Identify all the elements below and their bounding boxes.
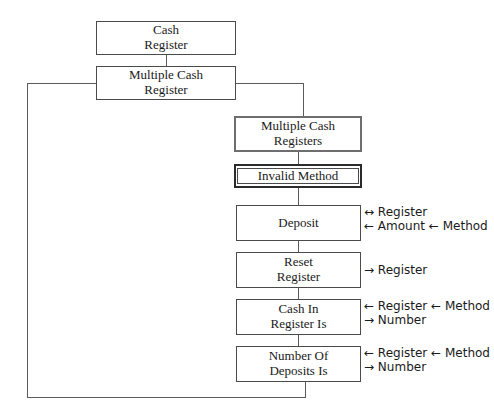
node-label-line2: Register <box>144 83 187 98</box>
structure-chart-diagram: CashRegisterMultiple CashRegisterMultipl… <box>0 0 494 419</box>
node-label-line1: Number Of <box>269 349 329 364</box>
node-label-line1: Cash <box>153 23 179 38</box>
annotation-row: → Number <box>364 314 490 328</box>
annotation-deposit-annot: ↔ Register← Amount ← Method <box>364 206 488 234</box>
annotation-row: → Register <box>364 264 427 278</box>
node-label-line2: Register Is <box>271 317 327 332</box>
node-inner-frame: Invalid Method <box>237 168 359 185</box>
node-label-line1: Multiple Cash <box>129 68 203 83</box>
annotation-row: ↔ Register <box>364 206 488 220</box>
connector-invalid-to-deposit <box>298 188 299 205</box>
node-cash-in-register-is[interactable]: Cash InRegister Is <box>236 299 361 335</box>
annotation-row: → Number <box>364 361 490 375</box>
annotation-row: ← Register ← Method <box>364 347 490 361</box>
node-label-line1: Reset <box>284 255 313 270</box>
connector-cash-to-multiple <box>166 55 167 66</box>
annotation-number-of-deposits-is-annot: ← Register ← Method→ Number <box>364 347 490 375</box>
node-label-line2: Register <box>144 38 187 53</box>
connector-return-bottom <box>27 397 306 398</box>
node-label-line1: Cash In <box>278 302 318 317</box>
node-label-line1: Invalid Method <box>258 169 339 184</box>
node-label-line2: Deposits Is <box>269 364 327 379</box>
connector-deposit-to-reset <box>298 241 299 252</box>
annotation-reset-register-annot: → Register <box>364 264 427 278</box>
connector-mcr-right-down <box>303 83 304 116</box>
node-label-line1: Deposit <box>278 216 318 231</box>
node-label-line2: Registers <box>274 134 322 149</box>
node-cash-register[interactable]: CashRegister <box>96 21 236 55</box>
annotation-row: ← Register ← Method <box>364 300 490 314</box>
node-number-of-deposits-is[interactable]: Number OfDeposits Is <box>236 346 361 382</box>
node-label-line1: Multiple Cash <box>261 119 335 134</box>
connector-reset-to-cashin <box>298 288 299 299</box>
node-reset-register[interactable]: ResetRegister <box>236 252 361 288</box>
connector-return-left <box>27 83 28 398</box>
annotation-cash-in-register-is-annot: ← Register ← Method→ Number <box>364 300 490 328</box>
connector-mcr-right-stub <box>236 83 303 84</box>
connector-numdep-down <box>305 382 306 398</box>
connector-cashin-to-numdep <box>298 335 299 346</box>
node-label-line2: Register <box>277 270 320 285</box>
connector-mcrs-to-invalid <box>298 152 299 164</box>
connector-mcr-left-stub <box>27 83 97 84</box>
node-deposit[interactable]: Deposit <box>236 205 361 241</box>
annotation-row: ← Amount ← Method <box>364 220 488 234</box>
node-invalid-method[interactable]: Invalid Method <box>234 164 362 188</box>
node-multiple-cash-register[interactable]: Multiple CashRegister <box>96 66 236 100</box>
node-multiple-cash-registers[interactable]: Multiple CashRegisters <box>234 116 362 152</box>
